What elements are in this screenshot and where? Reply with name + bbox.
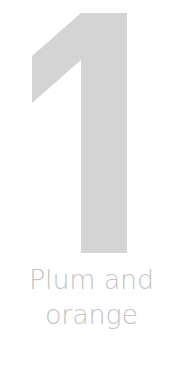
numeral-one-graphic bbox=[0, 0, 183, 260]
numeral-one-shape bbox=[32, 13, 127, 253]
caption-line-1: Plum and bbox=[0, 262, 183, 297]
caption-line-2: orange bbox=[0, 297, 183, 332]
caption: Plum and orange bbox=[0, 262, 183, 332]
